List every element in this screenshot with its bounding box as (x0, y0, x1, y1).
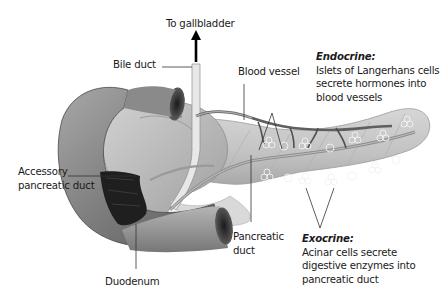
to-gallbladder-label: To gallbladder (166, 17, 234, 31)
endocrine-line: blood vessels (316, 91, 439, 105)
endocrine-description: Endocrine: Islets of Langerhans cells se… (316, 50, 439, 104)
arrow-up-icon (191, 30, 201, 62)
accessory-duct-line-2: pancreatic duct (18, 179, 94, 193)
endocrine-heading: Endocrine: (316, 50, 439, 64)
endocrine-line: Islets of Langerhans cells (316, 64, 439, 78)
endocrine-line: secrete hormones into (316, 77, 439, 91)
accessory-duct-line-1: Accessory (18, 165, 94, 179)
bile-duct-label: Bile duct (113, 58, 156, 72)
duodenum-label: Duodenum (105, 275, 160, 289)
pancreatic-duct-line-2: duct (233, 244, 284, 258)
pancreatic-duct-line-1: Pancreatic (233, 230, 284, 244)
pancreas-diagram: To gallbladder Bile duct Blood vessel En… (0, 0, 448, 304)
accessory-pancreatic-duct-label: Accessory pancreatic duct (18, 165, 94, 192)
blood-vessel-label: Blood vessel (238, 65, 300, 79)
exocrine-heading: Exocrine: (302, 232, 416, 246)
exocrine-line: digestive enzymes into (302, 259, 416, 273)
pancreatic-duct-label: Pancreatic duct (233, 230, 284, 257)
exocrine-line: pancreatic duct (302, 273, 416, 287)
exocrine-description: Exocrine: Acinar cells secrete digestive… (302, 232, 416, 286)
exocrine-line: Acinar cells secrete (302, 246, 416, 260)
